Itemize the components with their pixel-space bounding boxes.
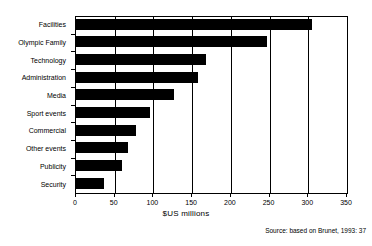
y-tick-9	[71, 175, 75, 176]
y-axis-label-1: Olympic Family	[0, 34, 69, 52]
x-tick-50	[114, 193, 115, 197]
bar-row	[76, 87, 346, 105]
y-axis-label-4: Media	[0, 87, 69, 105]
y-axis-label-9: Security	[0, 175, 69, 193]
bar-row	[76, 122, 346, 140]
bar-administration	[76, 72, 198, 83]
y-tick-4	[71, 87, 75, 88]
x-tick-label-250: 250	[254, 198, 284, 207]
x-tick-label-100: 100	[137, 198, 167, 207]
x-tick-0	[75, 193, 76, 197]
x-tick-label-300: 300	[292, 198, 322, 207]
bar-publicity	[76, 160, 122, 171]
x-tick-label-50: 50	[99, 198, 129, 207]
x-tick-label-200: 200	[215, 198, 245, 207]
y-axis-label-3: Administration	[0, 69, 69, 87]
x-axis-line	[75, 193, 347, 194]
y-axis-label-7: Other events	[0, 140, 69, 158]
bar-security	[76, 178, 104, 189]
bar-row	[76, 16, 346, 34]
y-tick-2	[71, 51, 75, 52]
y-tick-1	[71, 34, 75, 35]
y-axis-label-8: Publicity	[0, 158, 69, 176]
bar-facilities	[76, 19, 312, 30]
bar-chart: Facilities Olympic Family Technology Adm…	[0, 0, 372, 246]
bar-row	[76, 69, 346, 87]
x-tick-label-0: 0	[60, 198, 90, 207]
y-axis-label-2: Technology	[0, 51, 69, 69]
bar-commercial	[76, 125, 136, 136]
x-tick-250	[269, 193, 270, 197]
y-tick-6	[71, 122, 75, 123]
y-tick-8	[71, 158, 75, 159]
y-tick-7	[71, 140, 75, 141]
bar-sport-events	[76, 107, 150, 118]
bar-row	[76, 104, 346, 122]
bar-row	[76, 34, 346, 52]
x-tick-300	[307, 193, 308, 197]
source-note: Source: based on Brunet, 1993: 37	[265, 227, 366, 234]
x-tick-350	[346, 193, 347, 197]
y-axis-label-0: Facilities	[0, 16, 69, 34]
y-axis-category-labels: Facilities Olympic Family Technology Adm…	[0, 16, 69, 193]
x-tick-label-350: 350	[331, 198, 361, 207]
y-tick-5	[71, 105, 75, 106]
x-axis-title: $US millions	[0, 209, 372, 218]
bar-series	[76, 16, 346, 193]
x-tick-100	[152, 193, 153, 197]
x-tick-label-150: 150	[176, 198, 206, 207]
x-tick-150	[191, 193, 192, 197]
bar-media	[76, 89, 174, 100]
x-tick-200	[230, 193, 231, 197]
bar-row	[76, 51, 346, 69]
bar-technology	[76, 54, 206, 65]
y-axis-label-5: Sport events	[0, 104, 69, 122]
bar-row	[76, 158, 346, 176]
bar-olympic-family	[76, 36, 267, 47]
bar-row	[76, 140, 346, 158]
y-tick-3	[71, 69, 75, 70]
bar-row	[76, 175, 346, 193]
y-axis-label-6: Commercial	[0, 122, 69, 140]
bar-other-events	[76, 142, 128, 153]
